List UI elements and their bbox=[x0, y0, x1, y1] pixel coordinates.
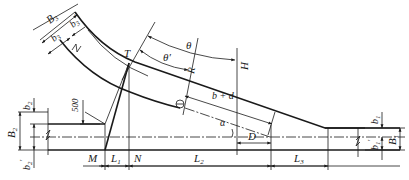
label-b1: b1 bbox=[369, 116, 382, 125]
label-L3: L3 bbox=[293, 152, 304, 166]
label-b3-prime: b3′ bbox=[66, 13, 84, 31]
label-b2: b2 bbox=[21, 101, 34, 110]
label-L1: L1 bbox=[110, 152, 121, 166]
label-B2: B2 bbox=[5, 127, 19, 138]
label-alpha: α bbox=[220, 117, 226, 128]
label-D: D bbox=[247, 130, 256, 142]
theta-arc bbox=[148, 36, 235, 60]
label-500: 500 bbox=[70, 98, 80, 112]
label-b-plus-d: b + d bbox=[212, 90, 235, 101]
short-diagonal-2 bbox=[85, 112, 105, 124]
short-diagonal bbox=[105, 63, 129, 124]
label-N: N bbox=[133, 152, 142, 164]
alpha-line bbox=[185, 108, 270, 137]
label-theta-prime: θ′ bbox=[163, 51, 171, 63]
label-b2-prime: b2′ bbox=[19, 160, 34, 171]
label-L2: L2 bbox=[193, 152, 204, 166]
label-B1: B1 bbox=[386, 135, 400, 145]
ramp-outer-edge bbox=[75, 12, 365, 128]
label-theta: θ bbox=[186, 39, 192, 51]
geometry-diagram: B3 b3 b3′ T θ θ′ R H b + d α D 500 b2 B2… bbox=[0, 0, 409, 180]
label-T: T bbox=[124, 47, 131, 59]
label-H: H bbox=[238, 61, 250, 71]
label-M: M bbox=[87, 152, 98, 164]
label-B3: B3 bbox=[44, 9, 61, 27]
label-R: R bbox=[185, 66, 197, 75]
label-b1-prime: b1′ bbox=[367, 140, 382, 151]
